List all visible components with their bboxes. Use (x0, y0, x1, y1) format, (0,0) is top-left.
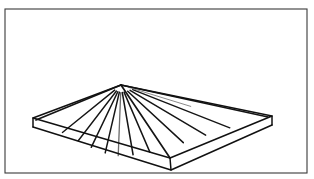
figure-canvas: Line drawing of a four-sided pyramidal r… (0, 0, 314, 179)
line-drawing-svg (0, 0, 314, 179)
slab-front-corner-vertical (170, 158, 171, 170)
